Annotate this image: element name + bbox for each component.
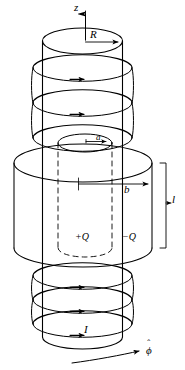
solenoid-coil-front	[33, 55, 132, 324]
solenoid-radius-label: R	[90, 29, 97, 40]
coil-helix-links-right	[132, 68, 134, 324]
length-l-bracket	[160, 163, 171, 248]
hat-accent-icon: ˆ	[147, 339, 150, 348]
solenoid-cylinder	[43, 28, 123, 349]
figure-canvas	[0, 0, 185, 370]
outer-charge-label: −Q	[122, 232, 136, 242]
outer-capacitor-cylinder	[14, 144, 152, 267]
outer-radius-label: b	[124, 184, 130, 195]
capacitor-length-label: l	[172, 194, 175, 205]
inner-radius-label: a	[96, 133, 101, 142]
phi-direction-arrow	[72, 351, 139, 363]
z-axis-label: z	[74, 2, 78, 13]
coil-current-arrowheads	[70, 79, 84, 335]
inner-charge-label: +Q	[75, 232, 89, 242]
phi-hat-wrapper: ˆϕ	[146, 345, 152, 356]
solenoid-coil-back	[33, 68, 132, 337]
coil-helix-links	[32, 68, 34, 324]
physics-figure: z R a b l +Q −Q I ˆϕ	[0, 0, 185, 370]
phi-unit-vector-label: ˆϕ	[146, 345, 152, 356]
current-label: I	[84, 324, 88, 335]
